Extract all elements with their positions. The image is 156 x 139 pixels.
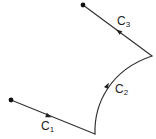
curve-diagram <box>0 0 156 139</box>
label-c1: C1 <box>41 120 54 134</box>
start-point-dot <box>9 98 14 103</box>
label-c3: C3 <box>117 15 130 29</box>
label-c2: C2 <box>115 83 128 97</box>
end-point-dot <box>81 3 86 8</box>
